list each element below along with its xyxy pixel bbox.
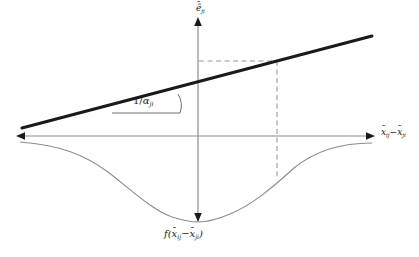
slope-label-numerator: 1/: [133, 95, 143, 106]
function-label-subscript-1: ij: [177, 233, 181, 240]
x-axis-label-subscript-1: ij: [386, 132, 390, 138]
x-axis-label-subscript-2: ji: [402, 132, 406, 138]
x-axis-left-arrow-icon: [16, 132, 25, 140]
function-label: f(¯xij−¯xji): [164, 229, 203, 239]
function-label-subscript-2: ji: [195, 233, 199, 240]
y-axis-bottom-arrow-icon: [194, 213, 202, 222]
x-axis-label-minus: −: [390, 127, 398, 137]
figure-canvas: ¯êji ¯xij−¯xji 1/αji f(¯xij−¯xji): [0, 0, 419, 257]
function-label-open: f(: [164, 228, 172, 239]
x-axis-label: ¯xij−¯xji: [381, 128, 406, 137]
x-axis: [16, 132, 375, 140]
y-axis-label-subscript: ji: [201, 8, 205, 14]
function-label-minus: −: [181, 228, 189, 239]
residual-regression-line: [22, 36, 372, 128]
function-label-close: ): [199, 228, 203, 239]
y-axis-label: ¯êji: [196, 4, 205, 13]
x-axis-right-arrow-icon: [366, 132, 375, 140]
slope-label-subscript: ji: [150, 100, 154, 107]
y-axis-top-arrow-icon: [194, 17, 202, 26]
density-curve: [20, 142, 372, 222]
diagram-svg: [0, 0, 419, 257]
slope-label-alpha-icon: α: [143, 95, 150, 106]
y-axis: [194, 17, 202, 222]
angle-arc-icon: [178, 94, 181, 113]
slope-label: 1/αji: [133, 96, 153, 106]
